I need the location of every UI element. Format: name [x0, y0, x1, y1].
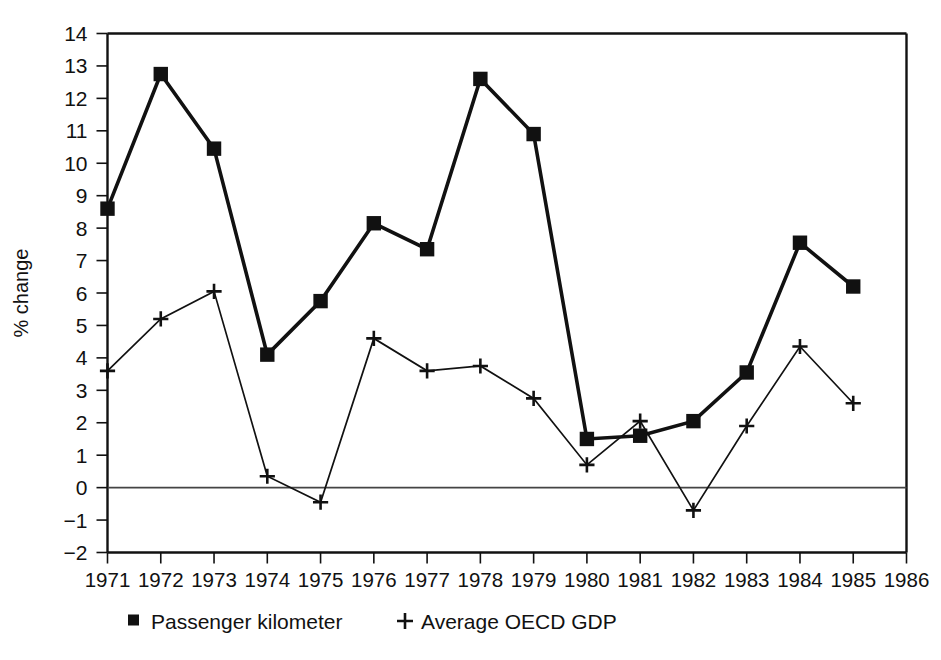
data-point-square-marker: [740, 365, 754, 379]
y-axis-title-text: % change: [10, 249, 32, 338]
y-tick-label: 4: [76, 346, 88, 369]
x-tick-label: 1981: [617, 568, 663, 591]
line-chart: 14131211109876543210−1−2 197119721973197…: [0, 0, 941, 660]
x-tick-label: 1972: [138, 568, 184, 591]
y-tick-label: 13: [64, 54, 87, 77]
legend-square-marker-icon: [128, 615, 139, 626]
x-tick-label: 1973: [191, 568, 237, 591]
data-point-square-marker: [154, 67, 168, 81]
data-point-plus-marker: [739, 418, 754, 433]
y-tick-label: 0: [76, 476, 88, 499]
y-tick-label: 11: [66, 119, 88, 142]
x-tick-label: 1979: [511, 568, 557, 591]
y-axis-title: % change: [10, 249, 32, 338]
data-point-square-marker: [420, 242, 434, 256]
data-point-square-marker: [100, 201, 114, 215]
data-point-plus-marker: [420, 363, 435, 378]
data-point-square-marker: [526, 127, 540, 141]
chart-page: 14131211109876543210−1−2 197119721973197…: [0, 0, 941, 660]
y-tick-label: 3: [76, 379, 88, 402]
legend-label-passenger-kilometer: Passenger kilometer: [151, 610, 342, 633]
legend-plus-marker-icon: [397, 613, 413, 629]
data-point-plus-marker: [366, 331, 381, 346]
x-tick-label: 1982: [671, 568, 717, 591]
y-tick-label: 9: [76, 184, 88, 207]
x-tick-label: 1985: [830, 568, 876, 591]
x-tick-label: 1977: [404, 568, 450, 591]
x-tick-label: 1976: [351, 568, 397, 591]
x-tick-label: 1971: [85, 568, 131, 591]
chart-legend: Passenger kilometerAverage OECD GDP: [128, 610, 617, 633]
chart-series: [100, 67, 861, 518]
y-axis-ticks: 14131211109876543210−1−2: [64, 22, 108, 564]
data-point-square-marker: [580, 432, 594, 446]
data-point-square-marker: [313, 294, 327, 308]
data-point-square-marker: [793, 236, 807, 250]
data-point-plus-marker: [473, 358, 488, 373]
y-tick-label: 2: [76, 411, 88, 434]
series-line-passenger-kilometer: [108, 74, 854, 439]
data-point-plus-marker: [686, 503, 701, 518]
x-tick-label: 1983: [724, 568, 770, 591]
data-point-square-marker: [686, 414, 700, 428]
x-tick-label: 1984: [777, 568, 823, 591]
y-tick-label: 12: [64, 87, 87, 110]
data-point-square-marker: [367, 216, 381, 230]
x-tick-label: 1975: [298, 568, 344, 591]
data-point-square-marker: [207, 141, 221, 155]
y-tick-label: 14: [64, 22, 88, 45]
x-tick-label: 1986: [884, 568, 930, 591]
y-tick-label: −1: [64, 509, 88, 532]
y-tick-label: 10: [64, 152, 87, 175]
legend-label-average-oecd-gdp: Average OECD GDP: [421, 610, 617, 633]
data-point-plus-marker: [260, 469, 275, 484]
data-point-plus-marker: [206, 284, 221, 299]
x-tick-label: 1974: [244, 568, 290, 591]
chart-axes: [108, 34, 907, 553]
y-tick-label: 8: [76, 217, 88, 240]
data-point-square-marker: [260, 347, 274, 361]
y-tick-label: 5: [76, 314, 88, 337]
x-tick-label: 1980: [564, 568, 610, 591]
data-point-square-marker: [633, 429, 647, 443]
data-point-square-marker: [846, 279, 860, 293]
x-tick-label: 1978: [458, 568, 504, 591]
y-tick-label: 6: [76, 282, 88, 305]
y-tick-label: 1: [76, 444, 88, 467]
y-tick-label: 7: [76, 249, 88, 272]
y-tick-label: −2: [64, 541, 88, 564]
data-point-plus-marker: [313, 495, 328, 510]
series-line-average-oecd-gdp: [108, 291, 854, 510]
x-axis-ticks: 1971197219731974197519761977197819791980…: [85, 553, 930, 591]
data-point-square-marker: [473, 72, 487, 86]
